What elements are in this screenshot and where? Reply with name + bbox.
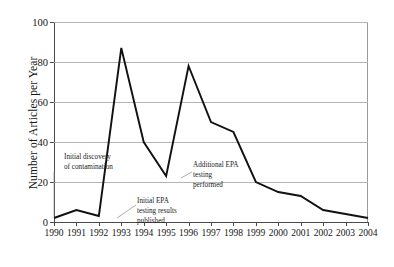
x-tick-mark — [368, 222, 369, 226]
x-tick-mark — [99, 222, 100, 226]
x-tick-label: 1995 — [157, 228, 176, 238]
x-tick-mark — [189, 222, 190, 226]
y-tick-label: 40 — [38, 137, 49, 148]
annotation-initial-discovery: Initial discovery of contamination — [64, 152, 113, 172]
x-tick-mark — [54, 222, 55, 226]
x-tick-label: 2000 — [269, 228, 288, 238]
x-tick-label: 1992 — [89, 228, 108, 238]
x-tick-label: 2004 — [359, 228, 378, 238]
x-tick-label: 2003 — [336, 228, 355, 238]
x-tick-mark — [76, 222, 77, 226]
y-tick-label: 0 — [43, 217, 48, 228]
data-line-series — [54, 22, 368, 222]
x-tick-label: 1994 — [134, 228, 153, 238]
x-tick-mark — [211, 222, 212, 226]
x-tick-label: 1999 — [246, 228, 265, 238]
x-tick-mark — [256, 222, 257, 226]
annotation-initial-epa-testing: Initial EPA testing results published — [137, 196, 177, 227]
x-tick-label: 2002 — [314, 228, 333, 238]
x-tick-mark — [233, 222, 234, 226]
x-tick-label: 1993 — [112, 228, 131, 238]
x-tick-label: 1997 — [202, 228, 221, 238]
chart-figure: Number of Articles per Year 020406080100… — [0, 0, 394, 267]
y-tick-label: 80 — [38, 57, 49, 68]
y-tick-label: 20 — [38, 177, 49, 188]
x-tick-mark — [323, 222, 324, 226]
x-tick-label: 1991 — [67, 228, 86, 238]
annotation-additional-epa-testing: Additional EPA testing performed — [193, 160, 238, 191]
x-tick-mark — [301, 222, 302, 226]
y-tick-label: 60 — [38, 97, 49, 108]
x-tick-mark — [121, 222, 122, 226]
x-tick-label: 1990 — [45, 228, 64, 238]
x-tick-mark — [278, 222, 279, 226]
y-axis-title: Number of Articles per Year — [27, 23, 39, 223]
plot-area: 020406080100 199019911992199319941995199… — [54, 22, 368, 222]
x-tick-label: 2001 — [291, 228, 310, 238]
y-tick-label: 100 — [32, 17, 48, 28]
x-tick-label: 1996 — [179, 228, 198, 238]
x-tick-label: 1998 — [224, 228, 243, 238]
x-tick-mark — [346, 222, 347, 226]
